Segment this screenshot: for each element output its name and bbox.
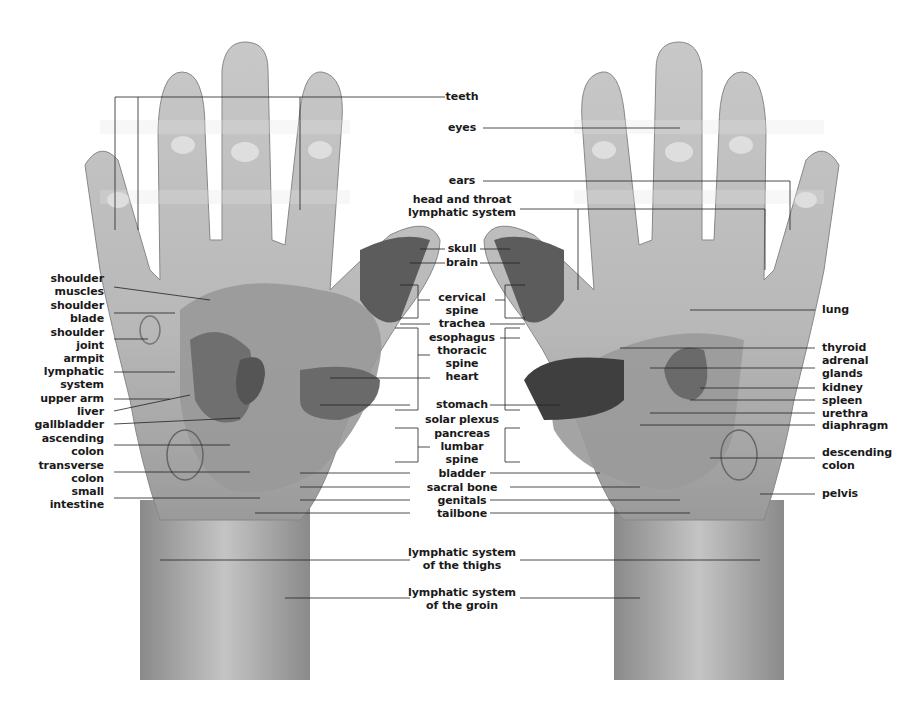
label-genitals: genitals xyxy=(402,494,522,507)
label-cervical-spine: cervicalspine xyxy=(402,291,522,317)
label-ascending-colon: ascendingcolon xyxy=(0,432,104,458)
label-spleen: spleen xyxy=(822,394,862,407)
label-trachea: trachea xyxy=(402,317,522,330)
label-sacral-bone: sacral bone xyxy=(402,481,522,494)
label-ears: ears xyxy=(402,174,522,187)
label-adrenal-glands: adrenalglands xyxy=(822,354,869,380)
label-pelvis: pelvis xyxy=(822,487,858,500)
label-brain: brain xyxy=(402,256,522,269)
label-lumbar-spine: lumbarspine xyxy=(402,440,522,466)
right-hand xyxy=(484,42,839,680)
label-tailbone: tailbone xyxy=(402,507,522,520)
label-kidney: kidney xyxy=(822,381,863,394)
label-armpit-lymphatic-system: armpitlymphaticsystem xyxy=(0,352,104,391)
label-diaphragm: diaphragm xyxy=(822,419,888,432)
label-bladder: bladder xyxy=(402,467,522,480)
label-transverse-colon: transversecolon xyxy=(0,459,104,485)
label-liver: liver xyxy=(0,405,104,418)
label-teeth: teeth xyxy=(402,90,522,103)
label-skull: skull xyxy=(402,242,522,255)
label-solar-plexus: solar plexus xyxy=(402,413,522,426)
label-thoracic-spine: thoracicspine xyxy=(402,344,522,370)
label-heart: heart xyxy=(402,370,522,383)
label-eyes: eyes xyxy=(402,121,522,134)
label-thyroid: thyroid xyxy=(822,341,866,354)
label-lymphatic-system-of-the-thighs: lymphatic systemof the thighs xyxy=(392,546,532,572)
label-shoulder-muscles: shouldermuscles xyxy=(0,272,104,298)
label-upper-arm: upper arm xyxy=(0,392,104,405)
label-shoulder-joint: shoulderjoint xyxy=(0,326,104,352)
reflexology-diagram: shouldermuscles shoulderblade shoulderjo… xyxy=(0,0,924,707)
label-descending-colon: descendingcolon xyxy=(822,446,892,472)
label-shoulder-blade: shoulderblade xyxy=(0,299,104,325)
label-lymphatic-system-of-the-groin: lymphatic systemof the groin xyxy=(392,586,532,612)
label-esophagus: esophagus xyxy=(402,331,522,344)
label-gallbladder: gallbladder xyxy=(0,418,104,431)
label-small-intestine: smallintestine xyxy=(0,485,104,511)
label-lung: lung xyxy=(822,303,849,316)
label-stomach: stomach xyxy=(402,398,522,411)
label-pancreas: pancreas xyxy=(402,427,522,440)
label-head-and-throat-lymphatic-system: head and throatlymphatic system xyxy=(392,193,532,219)
